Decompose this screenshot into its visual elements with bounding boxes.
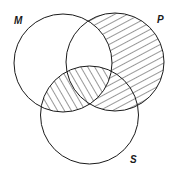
venn-diagram: M P S [0,0,174,174]
set-m-label: M [14,15,23,26]
set-s-label: S [130,154,137,165]
venn-svg: M P S [0,0,174,174]
set-p-label: P [157,14,164,25]
